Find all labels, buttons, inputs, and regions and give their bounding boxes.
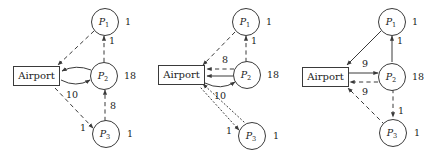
demand-p3: 1	[273, 130, 279, 141]
demand-p1: 1	[412, 16, 418, 27]
edge-airport-p2	[61, 80, 90, 84]
depot-label: Airport	[162, 69, 199, 80]
edge-label-airport-p2: 10	[66, 89, 78, 100]
demand-p1: 1	[266, 16, 272, 27]
edge-label-p2-airport-dashed: 8	[222, 54, 228, 65]
edge-airport-p2	[205, 82, 235, 87]
right-panel: Airport P1 1 P2 18 P3 1 1 9 9 1	[289, 0, 434, 159]
edge-label-airport-p3: 1	[80, 122, 86, 133]
edge-label-airport-p2: 10	[214, 90, 226, 101]
edge-p1-airport	[58, 31, 94, 65]
depot-label: Airport	[306, 71, 343, 82]
edge-label-p2-p1: 1	[251, 35, 257, 46]
edge-label-airport-p2: 9	[362, 58, 368, 69]
edge-label-p3-p2: 8	[110, 100, 116, 111]
demand-p3: 1	[127, 128, 133, 139]
demand-p2: 18	[267, 69, 279, 80]
demand-p1: 1	[125, 16, 131, 27]
demand-p2: 18	[124, 70, 136, 81]
edge-label-airport-p3: 1	[226, 125, 232, 136]
middle-panel: Airport P1 1 P2 18 P3 1 1 8 10 1	[145, 0, 290, 159]
edge-label-p2-p3: 1	[398, 105, 404, 116]
edge-label-p2-p1: 1	[109, 35, 115, 46]
network-figure: Airport P1 1 P2 18 P3 1 1 10 8 1	[0, 0, 434, 159]
depot-label: Airport	[17, 70, 54, 81]
demand-p2: 18	[412, 71, 424, 82]
edge-label-p2-airport: 9	[362, 86, 368, 97]
demand-p3: 1	[414, 127, 420, 138]
edge-p1-airport	[203, 32, 235, 65]
edge-p2-airport	[62, 67, 91, 71]
edge-label-p2-p1: 1	[397, 35, 403, 46]
left-panel: Airport P1 1 P2 18 P3 1 1 10 8 1	[0, 0, 145, 159]
